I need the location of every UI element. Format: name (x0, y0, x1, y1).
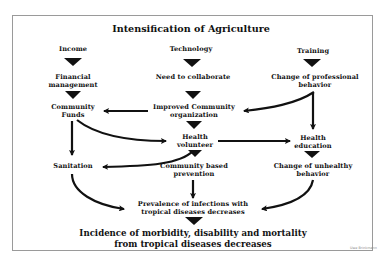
node-health-volunteer: Health volunteer (177, 133, 213, 149)
node-prevalence-decreases: Prevalence of infections with tropical d… (138, 200, 248, 216)
node-improved-community-organization: Improved Community organization (153, 103, 235, 119)
node-label-line: Change of unhealthy (274, 162, 353, 170)
node-label-line: Community based (160, 162, 228, 170)
node-incidence-decreases: Incidence of morbidity, disability and m… (79, 228, 306, 250)
outcome-line: Incidence of morbidity, disability and m… (79, 228, 306, 239)
node-technology: Technology (170, 45, 213, 53)
node-financial-management: Financial management (48, 73, 97, 89)
arrow-professional-to-improved (244, 92, 314, 111)
node-health-education: Health education (294, 134, 332, 150)
node-income: Income (59, 45, 87, 53)
node-label-line: Funds (51, 111, 94, 119)
node-community-based-prevention: Community based prevention (160, 162, 228, 178)
node-label-line: Health (294, 134, 332, 142)
node-label-line: volunteer (177, 141, 213, 149)
triangle-financial-funds (65, 91, 81, 99)
node-label-line: Prevalence of infections with (138, 200, 248, 208)
author-signature: Uwe Brinkmann (350, 246, 377, 250)
triangle-training-change (303, 59, 321, 67)
node-label-line: prevention (160, 170, 228, 178)
node-sanitation: Sanitation (53, 162, 92, 170)
diagram-title: Intensification of Agriculture (112, 23, 270, 34)
node-community-funds: Community Funds (51, 103, 94, 119)
node-need-to-collaborate: Need to collaborate (156, 73, 231, 81)
arrow-sanitation-to-prevalence (72, 174, 124, 209)
diagram-canvas: Intensification of Agriculture Income Te… (0, 0, 383, 267)
triangle-education-unhealthy (304, 151, 320, 158)
node-label-line: Health (177, 133, 213, 141)
node-label-line: behavior (274, 170, 353, 178)
triangle-income-financial (64, 58, 82, 66)
triangle-tech-need (183, 59, 201, 67)
node-label-line: tropical diseases decreases (138, 208, 248, 216)
triangle-need-improved (185, 91, 201, 99)
triangle-prevalence-outcome (185, 217, 203, 225)
node-label-line: Change of professional (271, 73, 358, 81)
arrow-unhealthy-to-prevalence (262, 180, 313, 209)
arrow-funds-to-volunteer (77, 120, 166, 141)
node-label-line: organization (153, 111, 235, 119)
node-label-line: Improved Community (153, 103, 235, 111)
node-label-line: education (294, 142, 332, 150)
node-training: Training (297, 47, 329, 55)
node-label-line: Community (51, 103, 94, 111)
outcome-line: from tropical diseases decreases (79, 239, 306, 250)
node-label-line: behavior (271, 81, 358, 89)
triangle-improved-volunteer (186, 121, 202, 129)
node-change-of-unhealthy-behavior: Change of unhealthy behavior (274, 162, 353, 178)
node-label-line: management (48, 81, 97, 89)
node-label-line: Financial (48, 73, 97, 81)
node-change-of-professional-behavior: Change of professional behavior (271, 73, 358, 89)
